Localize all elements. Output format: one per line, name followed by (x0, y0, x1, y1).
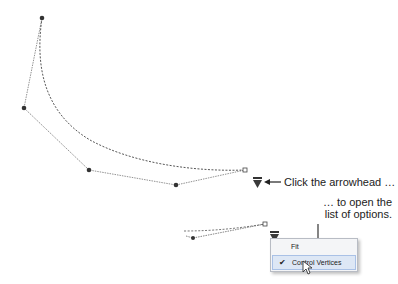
menu-item-label: Control Vertices (292, 259, 341, 266)
control-polygon-lower (186, 224, 265, 238)
control-vertex[interactable] (191, 236, 195, 240)
vertices-upper (22, 16, 179, 188)
end-vertex-square[interactable] (263, 222, 267, 226)
mouse-cursor-icon (302, 260, 314, 276)
callout-click-arrowhead: Click the arrowhead … (284, 176, 395, 188)
checkmark-icon: ✔ (279, 256, 286, 269)
control-vertex[interactable] (174, 183, 179, 188)
callout-text: … to open the (319, 196, 392, 208)
callout-text: Click the arrowhead … (284, 176, 395, 188)
spline-curve-lower (184, 224, 265, 231)
arrowhead-dropdown-icon[interactable] (253, 177, 262, 188)
control-vertex[interactable] (40, 16, 45, 21)
end-vertex-square[interactable] (243, 168, 247, 172)
spline-curve-upper (40, 18, 245, 170)
callout-open-list: … to open the list of options. (319, 196, 392, 220)
control-polygon-upper (24, 18, 245, 185)
menu-item-control-vertices[interactable]: ✔ Control Vertices (272, 255, 356, 270)
menu-item-fit[interactable]: Fit (271, 239, 357, 254)
options-menu: Fit ✔ Control Vertices (270, 238, 358, 272)
pointer-arrow-icon (264, 179, 281, 185)
control-vertex[interactable] (22, 106, 27, 111)
control-vertex[interactable] (87, 168, 92, 173)
menu-item-label: Fit (291, 243, 299, 250)
callout-text: list of options. (319, 208, 392, 220)
